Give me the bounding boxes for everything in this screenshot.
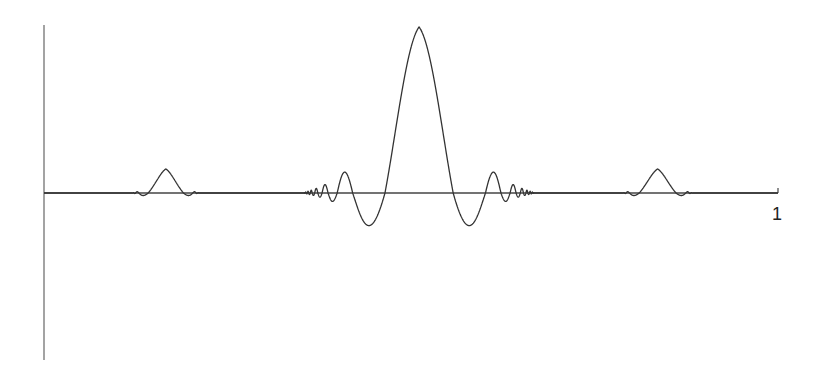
plot-area (0, 0, 817, 367)
signal-curve (44, 27, 778, 226)
x-tick-label-1: 1 (772, 204, 782, 225)
